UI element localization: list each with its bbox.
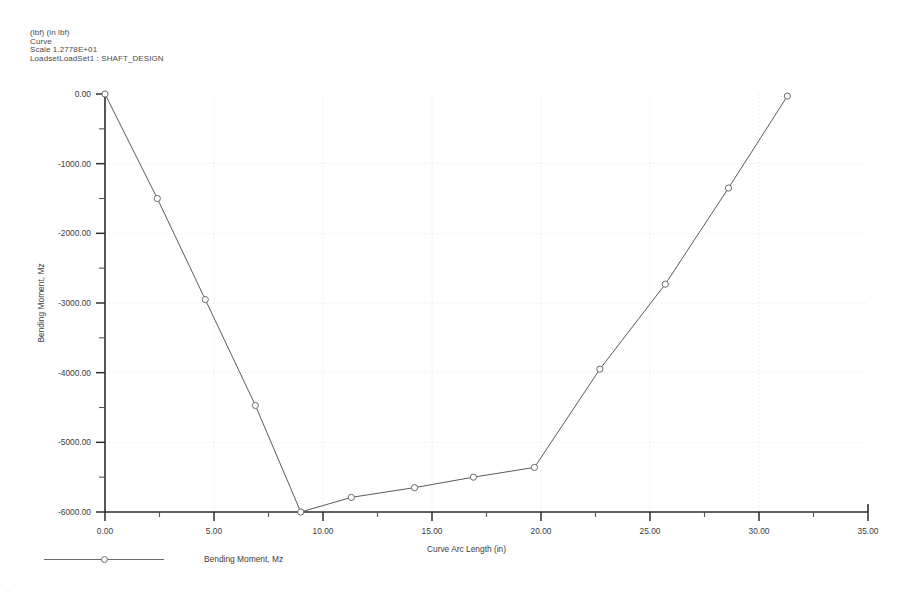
x-tick-label: 30.00 [749,526,770,536]
data-point-marker [725,185,731,191]
data-point-marker [531,464,537,470]
x-tick-label: 25.00 [640,526,661,536]
axis-titles: Curve Arc Length (in)Bending Moment, Mz [36,263,506,554]
circle-marker-icon [101,556,108,563]
data-point-marker [202,296,208,302]
y-axis-title: Bending Moment, Mz [36,263,46,342]
x-axis-title: Curve Arc Length (in) [427,544,506,554]
legend-entry-label: Bending Moment, Mz [204,554,283,564]
axis-ticks [96,94,868,521]
y-tick-label: 0.00 [75,89,92,99]
y-tick-label: -2000.00 [58,228,91,238]
series-bending-moment-mz [102,91,791,515]
chart-legend: Bending Moment, Mz [44,554,283,564]
x-tick-label: 0.00 [97,526,114,536]
y-tick-label: -4000.00 [58,368,91,378]
x-tick-label: 20.00 [531,526,552,536]
y-tick-label: -6000.00 [58,507,91,517]
legend-swatch [44,554,164,564]
data-point-marker [597,366,603,372]
x-tick-label: 5.00 [206,526,223,536]
y-tick-label: -1000.00 [58,159,91,169]
data-point-marker [411,485,417,491]
grid-lines [105,94,868,512]
x-tick-label: 15.00 [422,526,443,536]
data-point-marker [102,91,108,97]
y-tick-labels: 0.00-1000.00-2000.00-3000.00-4000.00-500… [58,89,91,517]
data-point-marker [252,402,258,408]
data-point-marker [784,93,790,99]
data-point-marker [662,281,668,287]
data-point-marker [154,195,160,201]
y-tick-label: -3000.00 [58,298,91,308]
data-point-marker [348,494,354,500]
bottom-scan-artifact: . . . [0,575,904,593]
x-tick-labels: 0.005.0010.0015.0020.0025.0030.0035.00 [97,526,879,536]
x-tick-label: 10.00 [313,526,334,536]
data-point-marker [298,509,304,515]
chart-container: 0.005.0010.0015.0020.0025.0030.0035.00 0… [0,0,904,593]
y-tick-label: -5000.00 [58,437,91,447]
x-tick-label: 35.00 [858,526,879,536]
series-polyline [105,94,787,512]
bending-moment-line-chart: 0.005.0010.0015.0020.0025.0030.0035.00 0… [0,0,904,593]
data-point-marker [470,474,476,480]
smudge-text: . . . [0,575,35,587]
